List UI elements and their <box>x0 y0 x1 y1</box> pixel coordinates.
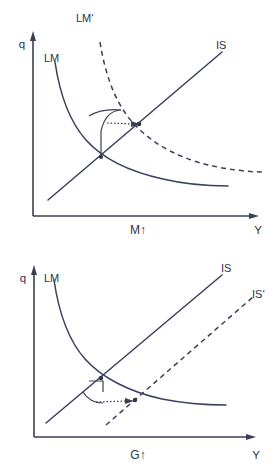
y-axis-fiscal <box>31 265 37 437</box>
initial-equilibrium-dot-fiscal <box>99 376 103 380</box>
figure-government-spending-increase: q Y LM IS ISʻ G↑ <box>0 240 280 472</box>
y-axis-arrowhead-icon <box>31 265 37 275</box>
curve-label-is-prime: ISʻ <box>252 288 265 300</box>
x-axis-arrowhead-icon <box>249 213 259 219</box>
shock-label-money: M↑ <box>130 223 146 237</box>
x-axis-money <box>33 213 259 219</box>
shock-label-fiscal: G↑ <box>130 448 145 462</box>
curve-label-is: IS <box>216 39 226 51</box>
x-axis-fiscal <box>34 434 256 440</box>
curve-lm <box>55 62 228 186</box>
y-axis-arrowhead-icon <box>30 31 36 41</box>
y-axis-label-money: q <box>19 38 25 50</box>
adjustment-arc <box>101 110 121 131</box>
x-axis-arrowhead-icon <box>246 434 256 440</box>
adjustment-arrow-shaft <box>107 123 134 124</box>
curve-label-lm: LM <box>44 52 59 64</box>
shift-tick-fiscal <box>89 381 103 392</box>
curve-label-lm-prime: LMʻ <box>76 12 94 24</box>
curve-label-is-fiscal: IS <box>221 262 231 274</box>
adjustment-arrowhead-icon <box>125 398 134 404</box>
money-chart-svg: q Y LM LMʻ IS M↑ <box>0 0 280 240</box>
curve-label-lm-fiscal: LM <box>44 272 59 284</box>
x-axis-label-fiscal: Y <box>252 449 260 461</box>
curve-lm-prime <box>100 42 264 172</box>
x-axis-label-money: Y <box>254 224 262 236</box>
figure-money-supply-increase: q Y LM LMʻ IS M↑ <box>0 0 280 240</box>
y-axis-label-fiscal: q <box>20 272 26 284</box>
y-axis-money <box>30 31 36 216</box>
curve-is <box>48 52 222 200</box>
new-equilibrium-dot-fiscal <box>133 398 137 402</box>
curve-is-prime <box>106 297 253 425</box>
curve-lm-fiscal <box>54 280 226 405</box>
fiscal-chart-svg: q Y LM IS ISʻ G↑ <box>0 240 280 472</box>
adjustment-arrow-shaft-fiscal <box>96 401 128 402</box>
